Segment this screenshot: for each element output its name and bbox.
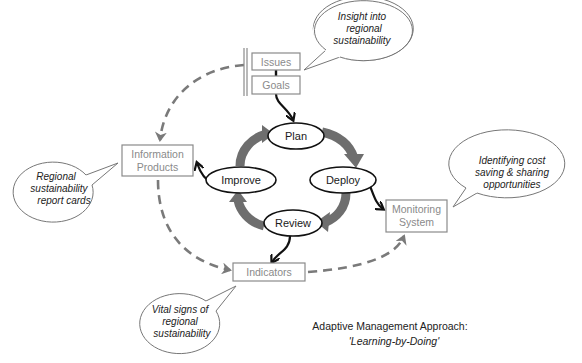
- callout-vital-signs-line1: Vital signs of: [152, 304, 210, 315]
- callout-report-cards-line3: report cards: [37, 195, 90, 206]
- plan-label: Plan: [285, 130, 307, 142]
- callout-report-cards-line1: Regional: [36, 171, 76, 182]
- information-products-label-line1: Information: [131, 148, 184, 160]
- callout-insight-line1: Insight into: [338, 11, 387, 22]
- review-node: Review: [264, 210, 322, 236]
- callout-report-cards-line2: sustainability: [30, 183, 88, 194]
- adaptive-management-diagram: Issues Goals Plan Deploy Review Improve …: [0, 0, 582, 363]
- dashed-arrow-goals-to-information-products: [160, 65, 244, 140]
- arrow-deploy-to-monitoring-system: [370, 186, 383, 209]
- callout-report-cards: Regional sustainability report cards: [13, 162, 118, 222]
- plan-node: Plan: [268, 123, 324, 149]
- goals-label: Goals: [262, 79, 289, 91]
- deploy-node: Deploy: [310, 167, 376, 193]
- dashed-arrow-indicators-to-monitoring-system: [308, 236, 404, 272]
- callout-vital-signs-line2: regional: [162, 316, 198, 327]
- cycle-arrow-plan-to-deploy: [322, 132, 364, 168]
- monitoring-system-label-line1: Monitoring: [392, 203, 441, 215]
- callout-vital-signs-line3: sustainability: [153, 328, 211, 339]
- callout-vital-signs: Vital signs of regional sustainability: [140, 286, 236, 354]
- callout-insight: Insight into regional sustainability: [304, 0, 413, 70]
- indicators-label: Indicators: [246, 266, 292, 278]
- callout-cost-saving: Identifying cost saving & sharing opport…: [449, 130, 565, 207]
- diagram-subtitle: 'Learning-by-Doing': [349, 335, 440, 347]
- goals-box: Goals: [252, 76, 300, 94]
- issues-label: Issues: [261, 56, 291, 68]
- callout-cost-saving-line2: saving & sharing: [475, 167, 549, 178]
- callout-cost-saving-line3: opportunities: [483, 179, 540, 190]
- callout-cost-saving-line1: Identifying cost: [479, 155, 547, 166]
- callout-insight-line2: regional: [346, 23, 382, 34]
- review-label: Review: [275, 217, 311, 229]
- information-products-box: Information Products: [122, 145, 193, 176]
- improve-node: Improve: [206, 167, 276, 193]
- arrow-review-to-indicators: [272, 236, 290, 262]
- dashed-arrow-information-products-to-indicators: [158, 180, 230, 270]
- callout-insight-line3: sustainability: [333, 35, 391, 46]
- issues-box: Issues: [252, 53, 300, 70]
- monitoring-system-label-line2: System: [399, 216, 434, 228]
- diagram-title: Adaptive Management Approach:: [312, 320, 467, 332]
- cycle-arrow-review-to-improve: [229, 190, 264, 226]
- deploy-label: Deploy: [326, 174, 361, 186]
- indicators-box: Indicators: [233, 263, 305, 281]
- information-products-label-line2: Products: [137, 161, 178, 173]
- monitoring-system-box: Monitoring System: [386, 200, 447, 232]
- arrow-goals-to-plan: [276, 94, 293, 120]
- improve-label: Improve: [221, 174, 261, 186]
